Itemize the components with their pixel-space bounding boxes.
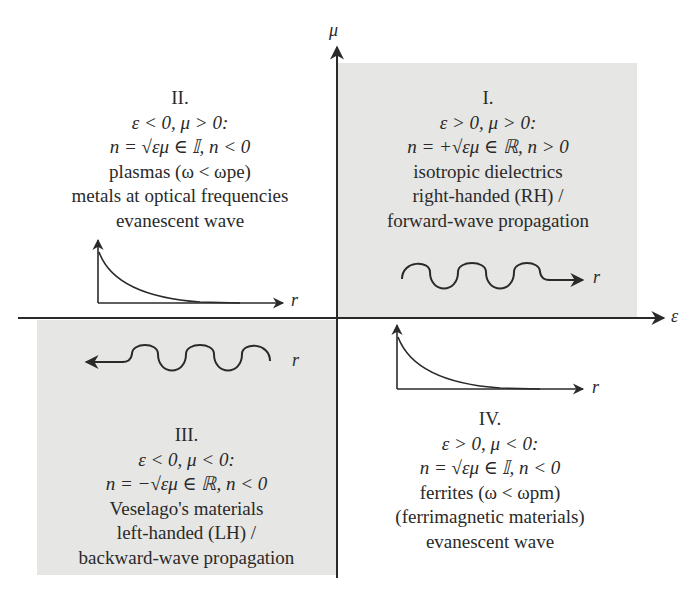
quadrant-I-line-1: isotropic dielectrics <box>345 160 631 185</box>
quadrant-III-line-3: backward-wave propagation <box>37 546 336 571</box>
quadrant-II-line-1: plasmas (ω < ωpe) <box>30 160 330 185</box>
quadrant-I-numeral: I. <box>345 86 631 111</box>
quadrant-IV-r-label: r <box>592 377 599 398</box>
quadrant-I-index: n = +√εμ ∈ ℝ, n > 0 <box>345 135 631 160</box>
epsilon-axis-label: ε <box>671 306 678 327</box>
quadrant-IV-line-3: evanescent wave <box>345 530 635 555</box>
quadrant-III-condition: ε < 0, μ < 0: <box>37 448 336 473</box>
quadrant-IV-index: n = √εμ ∈ 𝕀, n < 0 <box>345 456 635 481</box>
quadrant-II-index: n = √εμ ∈ 𝕀, n < 0 <box>30 135 330 160</box>
quadrant-III-line-1: Veselago's materials <box>37 497 336 522</box>
quadrant-I-forward-wave <box>402 263 583 289</box>
quadrant-I-line-3: forward-wave propagation <box>345 209 631 234</box>
quadrant-III-line-2: left-handed (LH) / <box>37 521 336 546</box>
quadrant-IV-numeral: IV. <box>345 407 635 432</box>
quadrant-IV-line-1: ferrites (ω < ωpm) <box>345 481 635 506</box>
quadrant-I-condition: ε > 0, μ > 0: <box>345 111 631 136</box>
quadrant-II-text: II. ε < 0, μ > 0: n = √εμ ∈ 𝕀, n < 0 pla… <box>30 86 330 233</box>
quadrant-II-line-3: evanescent wave <box>30 209 330 234</box>
quadrant-II-condition: ε < 0, μ > 0: <box>30 111 330 136</box>
quadrant-II-evanescent-plot <box>98 240 283 303</box>
quadrant-III-index: n = −√εμ ∈ ℝ, n < 0 <box>37 472 336 497</box>
quadrant-III-backward-wave <box>86 345 270 371</box>
quadrant-III-text: III. ε < 0, μ < 0: n = −√εμ ∈ ℝ, n < 0 V… <box>37 423 336 570</box>
mu-axis-label: μ <box>329 20 338 41</box>
quadrant-I-text: I. ε > 0, μ > 0: n = +√εμ ∈ ℝ, n > 0 iso… <box>345 86 631 233</box>
quadrant-II-numeral: II. <box>30 86 330 111</box>
quadrant-IV-condition: ε > 0, μ < 0: <box>345 432 635 457</box>
quadrant-I-r-label: r <box>593 267 600 288</box>
quadrant-III-numeral: III. <box>37 423 336 448</box>
quadrant-IV-text: IV. ε > 0, μ < 0: n = √εμ ∈ 𝕀, n < 0 fer… <box>345 407 635 554</box>
quadrant-IV-line-2: (ferrimagnetic materials) <box>345 505 635 530</box>
quadrant-II-r-label: r <box>291 290 298 311</box>
quadrant-I-line-2: right-handed (RH) / <box>345 184 631 209</box>
quadrant-II-line-2: metals at optical frequencies <box>30 184 330 209</box>
quadrant-IV-evanescent-plot <box>397 325 583 389</box>
quadrant-III-r-label: r <box>292 350 299 371</box>
